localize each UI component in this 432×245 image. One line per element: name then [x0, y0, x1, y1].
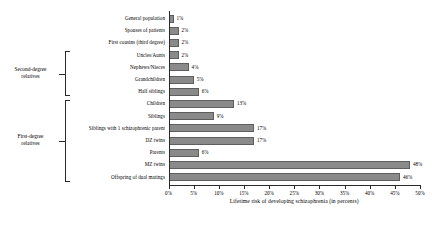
schizophrenia-risk-bar-chart: General population1%Spouses of patients2… — [0, 0, 432, 245]
category-label: Parents — [15, 147, 165, 158]
x-axis-tick — [370, 186, 371, 189]
category-label: Uncles/Aunts — [15, 50, 165, 61]
category-label: Siblings with 1 schizophrenic parent — [15, 123, 165, 134]
group-label-line: relatives — [4, 140, 57, 147]
group-label: Second-degreerelatives — [4, 66, 57, 80]
x-axis-tick — [244, 186, 245, 189]
group-bracket — [65, 51, 70, 96]
x-axis-tick — [294, 186, 295, 189]
category-label: MZ twins — [15, 159, 165, 170]
category-label: Offspring of dual matings — [15, 172, 165, 183]
x-axis-tick — [345, 186, 346, 189]
group-label-line: Second-degree — [4, 66, 57, 73]
category-label: Spouses of patients — [15, 25, 165, 36]
group-label-line: relatives — [4, 73, 57, 80]
x-axis-tick-label: 50% — [405, 190, 432, 197]
x-axis-tick — [269, 186, 270, 189]
x-axis-tick — [319, 186, 320, 189]
x-axis-title: Lifetime risk of developing schizophreni… — [169, 198, 421, 204]
x-axis-tick — [169, 186, 170, 189]
plot-axis-frame — [169, 11, 422, 186]
category-label: General population — [15, 13, 165, 24]
group-bracket-tick — [59, 141, 65, 142]
group-label-line: First-degree — [4, 133, 57, 140]
category-label: Siblings — [15, 111, 165, 122]
x-axis-tick — [219, 186, 220, 189]
category-label: Half siblings — [15, 86, 165, 97]
group-label: First-degreerelatives — [4, 133, 57, 147]
x-axis-tick — [194, 186, 195, 189]
x-axis-tick — [395, 186, 396, 189]
group-bracket-tick — [59, 74, 65, 75]
category-label: First cousins (third degree) — [15, 37, 165, 48]
category-label: Children — [15, 98, 165, 109]
group-bracket — [65, 100, 70, 182]
x-axis-tick — [420, 186, 421, 189]
